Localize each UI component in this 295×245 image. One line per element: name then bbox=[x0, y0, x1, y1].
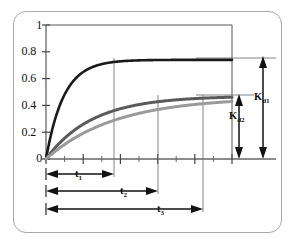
t3-label: t3 bbox=[157, 203, 164, 217]
t3-arrow bbox=[46, 203, 203, 215]
y-tick-label-06: 0.6 bbox=[8, 72, 36, 84]
y-tick-label-04: 0.4 bbox=[8, 99, 36, 111]
kd2-arrow bbox=[235, 94, 243, 159]
data-curves-group bbox=[46, 60, 232, 159]
figure-root: 1 0.8 0.6 0.4 0.2 0 Kd1 Kd2 t1 t2 t3 bbox=[0, 0, 295, 245]
t2-arrow bbox=[46, 185, 158, 197]
y-tick-label-1: 1 bbox=[14, 19, 42, 31]
curve-2 bbox=[46, 97, 232, 159]
y-tick-label-08: 0.8 bbox=[8, 45, 36, 57]
chart-canvas bbox=[0, 0, 295, 245]
y-tick-label-02: 0.2 bbox=[8, 126, 36, 138]
kd2-label: Kd2 bbox=[229, 110, 245, 124]
axes-group bbox=[46, 25, 276, 159]
curve-1 bbox=[46, 60, 232, 159]
kd1-label: Kd1 bbox=[254, 91, 270, 105]
y-tick-label-0: 0 bbox=[14, 152, 42, 164]
t2-label: t2 bbox=[120, 185, 127, 199]
t1-label: t1 bbox=[75, 168, 82, 182]
kd1-arrow bbox=[259, 56, 267, 159]
